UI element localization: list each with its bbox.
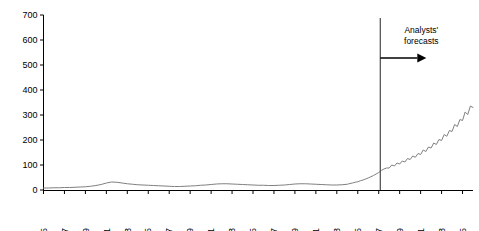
- x-tick-label: Jan-75: [39, 228, 49, 231]
- y-tick-label: 600: [22, 35, 37, 45]
- y-tick-label: 0: [32, 185, 37, 195]
- y-tick-label: 300: [22, 110, 37, 120]
- x-tick-label: Jan-85: [143, 228, 153, 231]
- x-tick-label: Jan-93: [227, 228, 237, 231]
- x-tick-label: Jan-11: [416, 228, 426, 231]
- x-tick-label: Jan-01: [311, 228, 321, 231]
- x-tick-label: Jan-09: [395, 228, 405, 231]
- y-tick-label: 200: [22, 135, 37, 145]
- y-tick-label: 100: [22, 160, 37, 170]
- x-tick-label: Jan-13: [437, 228, 447, 231]
- x-tick-label: Jan-05: [353, 228, 363, 231]
- line-chart: 0100200300400500600700 Jan-75Jan-77Jan-7…: [0, 0, 479, 231]
- x-tick-label: Jan-95: [248, 228, 258, 231]
- x-tick-label: Jan-97: [269, 228, 279, 231]
- chart-container: 0100200300400500600700 Jan-75Jan-77Jan-7…: [0, 0, 479, 231]
- x-tick-label: Jan-81: [102, 228, 112, 231]
- x-tick-label: Jan-07: [374, 228, 384, 231]
- forecast-annotation-line1: Analysts': [404, 25, 438, 35]
- y-tick-label: 700: [22, 10, 37, 20]
- x-tick-label: Jan-77: [60, 228, 70, 231]
- x-tick-label: Jan-83: [123, 228, 133, 231]
- x-tick-label: Jan-99: [290, 228, 300, 231]
- forecast-annotation-line2: forecasts: [404, 36, 439, 46]
- x-tick-label: Jan-89: [185, 228, 195, 231]
- y-tick-label: 400: [22, 85, 37, 95]
- x-tick-label: Jan-91: [206, 228, 216, 231]
- x-tick-label: Jan-79: [81, 228, 91, 231]
- x-tick-label: Jan-87: [164, 228, 174, 231]
- x-tick-label: Jan-03: [332, 228, 342, 231]
- x-tick-label: Jan-15: [458, 228, 468, 231]
- y-tick-label: 500: [22, 60, 37, 70]
